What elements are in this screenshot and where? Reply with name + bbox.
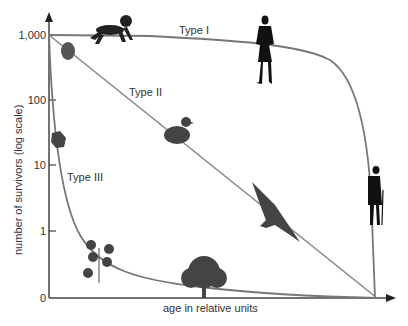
hawk-icon: [252, 182, 300, 242]
tree-icon: [181, 256, 227, 298]
type2-label: Type II: [129, 86, 162, 98]
seed-icon: [51, 131, 66, 148]
baby-icon: [90, 15, 133, 44]
y-axis-title: number of survivors (log scale): [12, 105, 24, 255]
type2-curve: [49, 35, 377, 298]
seedling-icon: [83, 240, 114, 283]
y-tick-1000: 1,000: [2, 29, 46, 41]
y-tick-1: 1: [2, 225, 46, 237]
y-tick-100: 100: [2, 94, 46, 106]
y-tick-10: 10: [2, 159, 46, 171]
survivorship-chart: [0, 0, 408, 326]
x-axis-title: age in relative units: [163, 302, 258, 314]
type3-label: Type III: [67, 171, 103, 183]
type1-label: Type I: [179, 24, 209, 36]
rodent-icon: [61, 42, 75, 60]
x-axis-arrow-icon: [386, 294, 396, 302]
y-axis-arrow-icon: [45, 12, 53, 22]
y-tick-0: 0: [2, 292, 46, 304]
bird-icon: [164, 117, 194, 144]
woman-icon: [256, 16, 274, 85]
